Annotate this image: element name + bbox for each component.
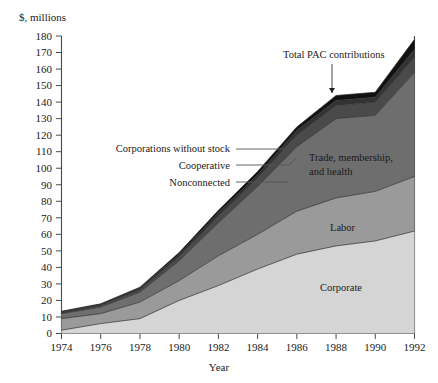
x-tick-label: 1992 (404, 341, 426, 353)
pac-contributions-chart: $, millions 0102030405060708090100110120… (0, 0, 438, 383)
x-tick-label: 1974 (51, 341, 74, 353)
callout-label: Cooperative (179, 160, 231, 171)
x-axis-tick-group: 1974197619781980198219841986198819901992 (51, 334, 426, 354)
y-tick-label: 120 (36, 129, 53, 141)
y-tick-label: 160 (36, 63, 53, 75)
x-tick-label: 1984 (247, 341, 270, 353)
annotation-label: Total PAC contributions (283, 49, 385, 60)
y-tick-label: 30 (41, 278, 53, 290)
x-tick-label: 1982 (207, 341, 229, 353)
y-tick-label: 110 (36, 145, 53, 157)
area-label: Corporate (320, 282, 362, 293)
y-tick-label: 0 (47, 327, 53, 339)
chart-svg: $, millions 0102030405060708090100110120… (0, 0, 438, 383)
x-tick-label: 1980 (168, 341, 191, 353)
y-axis-tick-group: 0102030405060708090100110120130140150160… (36, 30, 62, 340)
y-axis-unit-label: $, millions (19, 11, 66, 23)
annotation-group: Total PAC contributions (283, 49, 385, 93)
y-tick-label: 170 (36, 46, 53, 58)
y-tick-label: 10 (41, 311, 53, 323)
y-tick-label: 90 (41, 179, 53, 191)
x-axis-title: Year (209, 361, 230, 373)
y-tick-label: 130 (36, 112, 53, 124)
y-tick-label: 20 (41, 294, 53, 306)
x-tick-label: 1978 (129, 341, 152, 353)
y-tick-label: 140 (36, 96, 53, 108)
x-tick-label: 1988 (325, 341, 348, 353)
callout-label: Corporations without stock (116, 143, 231, 154)
y-tick-label: 70 (41, 212, 53, 224)
y-tick-label: 80 (41, 195, 53, 207)
area-label: and health (309, 166, 353, 177)
area-label: Labor (330, 222, 356, 233)
y-tick-label: 50 (41, 245, 53, 257)
x-tick-label: 1990 (364, 341, 387, 353)
y-tick-label: 100 (36, 162, 53, 174)
y-tick-label: 60 (41, 228, 53, 240)
x-tick-label: 1976 (90, 341, 113, 353)
y-tick-label: 180 (36, 30, 53, 42)
callout-label: Nonconnected (169, 177, 230, 188)
y-tick-label: 40 (41, 261, 53, 273)
area-label: Trade, membership, (309, 152, 393, 163)
y-tick-label: 150 (36, 79, 53, 91)
x-tick-label: 1986 (286, 341, 309, 353)
annotation-arrow-head (329, 88, 335, 93)
